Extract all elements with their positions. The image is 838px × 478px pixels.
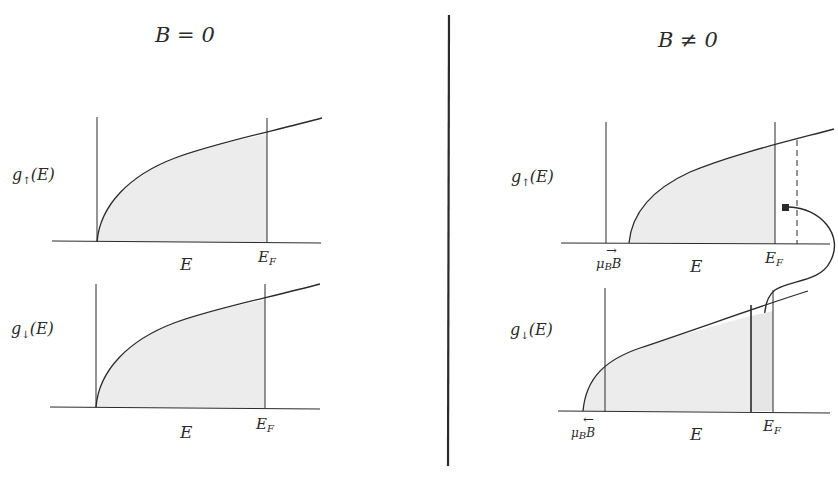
right-title: B ≠ 0 bbox=[657, 28, 718, 52]
xlabel-energy: E bbox=[689, 256, 703, 276]
xlabel-energy: E bbox=[689, 424, 703, 444]
xlabel-energy: E bbox=[179, 254, 193, 274]
xlabel-energy: E bbox=[179, 422, 193, 442]
fermi-label: EF bbox=[257, 248, 277, 267]
electron-marker bbox=[782, 204, 789, 211]
zeeman-shift-label: μBB bbox=[596, 256, 621, 272]
fermi-label: EF bbox=[764, 249, 784, 268]
filled-area-gained bbox=[751, 311, 773, 411]
left-upper-plot: g↑(E) E EF bbox=[12, 117, 322, 274]
ylabel-g-up: g↑(E) bbox=[12, 165, 55, 186]
shift-arrow-left: ← bbox=[583, 412, 594, 427]
x-axis bbox=[558, 411, 830, 413]
left-title: B = 0 bbox=[154, 23, 215, 47]
right-upper-plot: g↑(E) E EF → μBB bbox=[511, 122, 834, 276]
ylabel-g-up: g↑(E) bbox=[511, 167, 554, 188]
panel-divider bbox=[448, 15, 449, 466]
fermi-label: EF bbox=[762, 417, 782, 436]
left-lower-plot: g↓(E) E EF bbox=[11, 284, 320, 442]
right-lower-plot: g↓(E) E EF ← μBB bbox=[510, 288, 830, 444]
ylabel-g-down: g↓(E) bbox=[510, 320, 553, 341]
dos-diagram: B = 0 g↑(E) E EF g↓(E) E EF B ≠ 0 bbox=[0, 0, 838, 478]
filled-area bbox=[97, 134, 267, 242]
filled-area bbox=[96, 300, 265, 408]
x-axis bbox=[561, 243, 830, 244]
zeeman-shift-label: μBB bbox=[571, 426, 595, 441]
filled-area bbox=[629, 146, 775, 243]
ylabel-g-down: g↓(E) bbox=[11, 319, 54, 340]
fermi-label: EF bbox=[255, 415, 275, 434]
